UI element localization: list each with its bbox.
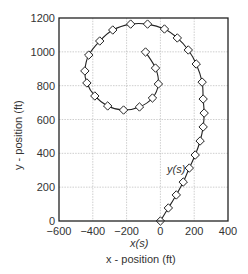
diamond-marker [185,164,193,172]
grid-lines [59,18,228,221]
y-tick-label: 600 [37,114,55,126]
diamond-marker [160,25,168,33]
diamond-marker [135,103,143,111]
diamond-marker [164,204,172,212]
x-axis-label: x - position (ft) [106,253,176,265]
diamond-marker [199,123,207,131]
diamond-marker [126,20,134,28]
diamond-marker [179,178,187,186]
diamond-marker [192,60,200,68]
y-tick-label: 400 [37,147,55,159]
spiral-chart: −600−400−2000200400 02004006008001000120… [0,0,248,274]
diamond-marker [191,151,199,159]
y-of-s-annotation: y(s) [166,163,186,175]
diamond-markers [81,20,209,225]
x-tick-label: −200 [114,225,139,237]
x-of-s-annotation: x(s) [129,237,149,249]
x-tick-label: 400 [219,225,237,237]
diamond-marker [199,95,207,103]
diamond-marker [141,48,149,56]
diamond-marker [198,78,206,86]
x-tick-label: −400 [80,225,105,237]
diamond-marker [200,109,208,117]
y-tick-label: 200 [37,181,55,193]
y-tick-label: 1000 [31,46,55,58]
diamond-marker [172,191,180,199]
y-axis-label: y - position (ft) [12,100,24,170]
x-tick-label: 200 [185,225,203,237]
diamond-marker [109,26,117,34]
diamond-marker [154,80,162,88]
y-tick-labels: 020040060080010001200 [31,12,55,227]
diamond-marker [103,102,111,110]
y-tick-label: 800 [37,80,55,92]
diamond-marker [196,137,204,145]
diamond-marker [143,20,151,28]
y-tick-label: 1200 [31,12,55,24]
diamond-marker [81,67,89,75]
x-tick-label: 0 [157,225,163,237]
diamond-marker [151,64,159,72]
y-tick-label: 0 [49,215,55,227]
x-tick-labels: −600−400−2000200400 [47,225,238,237]
